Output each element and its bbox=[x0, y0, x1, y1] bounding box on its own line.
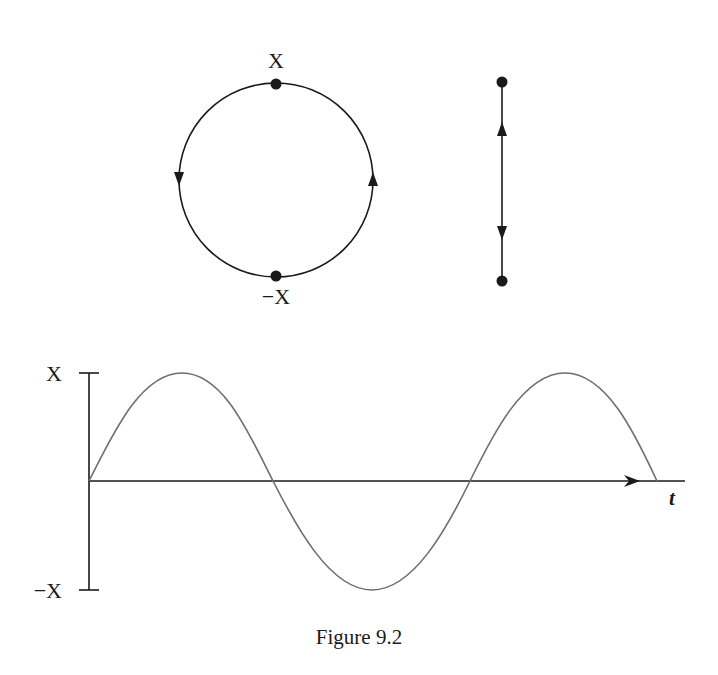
t-axis-label: t bbox=[669, 486, 676, 510]
arrow-up-icon bbox=[497, 122, 507, 136]
y-label-top: X bbox=[46, 361, 62, 386]
fixed-point-top bbox=[271, 79, 282, 90]
bottom-label: −X bbox=[262, 284, 290, 309]
fixed-point-bottom bbox=[271, 271, 282, 282]
arrow-down-icon bbox=[497, 226, 507, 240]
fixed-point-bottom bbox=[497, 276, 508, 287]
y-label-bottom: −X bbox=[34, 578, 62, 603]
time-plot: X −X t bbox=[34, 361, 685, 603]
fixed-point-top bbox=[497, 77, 508, 88]
figure-caption: Figure 9.2 bbox=[0, 625, 718, 650]
top-label: X bbox=[268, 48, 284, 73]
orbit-circle bbox=[179, 83, 373, 277]
arrow-down-icon bbox=[174, 172, 184, 186]
arrow-up-icon bbox=[368, 172, 378, 186]
phase-circle: X −X bbox=[174, 48, 378, 309]
figure-canvas: X −X X −X t bbox=[0, 0, 718, 675]
phase-line bbox=[497, 77, 508, 287]
